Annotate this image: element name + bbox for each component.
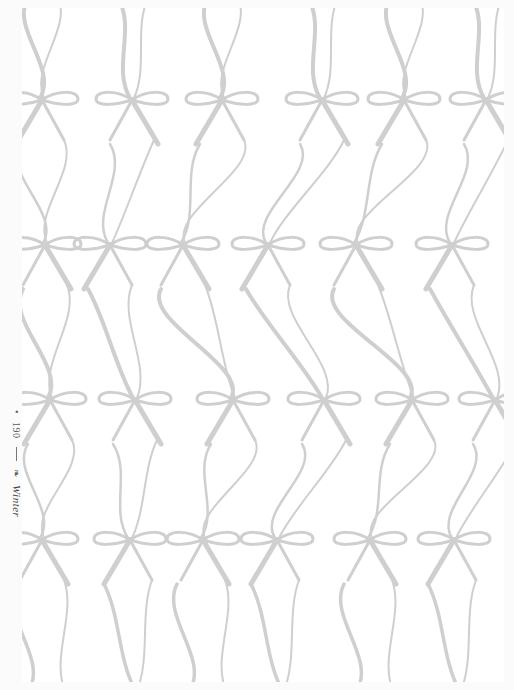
ribbon-pattern-illustration [22,8,504,682]
folio-bullet: • [12,410,23,414]
page-number: 190 [12,422,23,439]
ribbon-bows-pattern [22,8,504,682]
fleuron-ornament-icon: ❧ [12,469,23,478]
folio-separator [17,447,18,461]
book-page: • 190 ❧ Winter [0,0,514,690]
section-title: Winter [11,485,23,517]
page-folio: • 190 ❧ Winter [4,410,26,540]
